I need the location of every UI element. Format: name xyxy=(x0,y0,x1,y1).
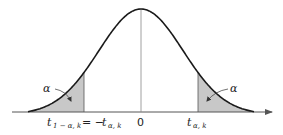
svg-text:1 − α, k: 1 − α, k xyxy=(53,122,81,130)
left-critical-value-label: t 1 − α, k = − t α, k xyxy=(47,116,121,130)
svg-text:t: t xyxy=(187,116,192,129)
right-critical-value-label: t α, k xyxy=(187,116,206,130)
svg-text:α, k: α, k xyxy=(193,122,206,130)
left-alpha-label: α xyxy=(43,82,51,95)
right-alpha-label: α xyxy=(230,82,238,95)
svg-text:t: t xyxy=(47,116,52,129)
right-tail-shaded-region xyxy=(198,72,254,112)
svg-text:α, k: α, k xyxy=(108,122,121,130)
t-distribution-diagram: α α t 1 − α, k = − t α, k 0 t α, k xyxy=(0,0,283,135)
center-zero-label: 0 xyxy=(137,116,144,129)
svg-text:= −: = − xyxy=(82,116,104,129)
svg-text:t: t xyxy=(102,116,107,129)
left-tail-shaded-region xyxy=(28,72,84,112)
